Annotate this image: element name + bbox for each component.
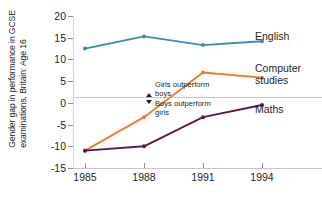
y-tick-label: 5 [60, 76, 66, 86]
gender-gap-line-chart: Gender gap in performance in GCSE examin… [0, 0, 322, 199]
annotation-girls-outperform-boys: Girls outperform boys [155, 81, 209, 98]
series-line-english [85, 36, 262, 48]
series-label-computer-studies: Computer studies [255, 63, 301, 86]
series-label-english: English [255, 31, 289, 43]
triangle-up-icon [146, 93, 152, 97]
y-tick-label: 20 [54, 11, 66, 21]
y-axis-title-line-2: examinations, Britain: Age 16 [18, 39, 29, 147]
data-point [83, 47, 87, 51]
x-tick-label: 1994 [250, 172, 273, 183]
data-point [83, 149, 87, 153]
y-axis-title: Gender gap in performance in GCSE examin… [1, 0, 35, 169]
data-point [142, 144, 146, 148]
data-point [201, 70, 205, 74]
y-tick [68, 168, 73, 169]
data-point [201, 43, 205, 47]
annotation-boys-outperform-girls: Boys outperform girls [155, 100, 211, 117]
x-tick-label: 1985 [73, 172, 96, 183]
plot-area: 20151050-5-10-15 1985198819911994 Girls … [73, 16, 248, 168]
y-tick-label: 15 [54, 33, 66, 43]
data-point [142, 115, 146, 119]
y-tick-label: -15 [51, 163, 66, 173]
y-tick-label: 0 [60, 98, 66, 108]
x-tick-label: 1988 [132, 172, 155, 183]
y-tick-label: -5 [57, 120, 66, 130]
series-label-computer-line-2: studies [255, 75, 301, 87]
y-tick-label: -10 [51, 141, 66, 151]
triangle-down-icon [146, 100, 152, 104]
annotation-boys-line-2: girls [155, 109, 211, 118]
x-tick-label: 1991 [191, 172, 214, 183]
series-label-maths: Maths [255, 104, 284, 116]
annotation-girls-line-2: boys [155, 90, 209, 99]
x-axis-spine [73, 168, 322, 169]
series-label-computer-line-1: Computer [255, 63, 301, 75]
data-point [142, 34, 146, 38]
y-tick-label: 10 [54, 54, 66, 64]
y-axis-title-line-1: Gender gap in performance in GCSE [7, 10, 18, 148]
